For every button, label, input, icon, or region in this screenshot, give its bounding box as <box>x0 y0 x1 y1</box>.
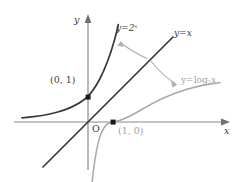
x-axis-label: x <box>224 126 229 136</box>
identity-line-label: y=x <box>174 29 192 38</box>
point-0-1 <box>86 95 91 100</box>
origin-label: O <box>92 124 100 134</box>
logarithm-curve-label: y=log2x <box>181 76 216 85</box>
y-axis-arrowhead <box>85 14 92 23</box>
reflection-arc-line-to-logarithm <box>151 61 176 84</box>
logarithm-label-argument: x <box>211 75 216 85</box>
exponential-curve <box>22 25 118 118</box>
logarithm-label-base: y=log <box>181 75 208 85</box>
identity-line <box>43 37 173 167</box>
exponential-curve-label: y=2x <box>116 24 137 33</box>
exponential-label-exponent: x <box>134 23 137 29</box>
math-figure: y=2x y=x y=log2x (0, 1) (1, 0) O x y <box>0 0 246 182</box>
exponential-label-base: y=2 <box>116 23 134 33</box>
logarithm-curve <box>92 82 220 182</box>
y-axis-label: y <box>74 15 79 25</box>
reflection-arc-exponential-to-line <box>121 43 148 59</box>
point-1-0 <box>111 120 116 125</box>
point-0-1-label: (0, 1) <box>50 75 76 85</box>
point-1-0-label: (1, 0) <box>118 126 144 136</box>
